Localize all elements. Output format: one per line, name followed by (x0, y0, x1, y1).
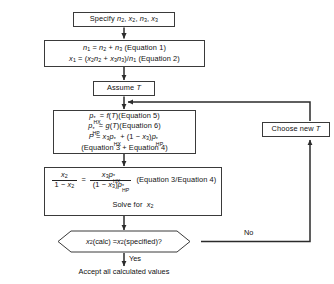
node-ratio: x2 1 − x2 = x3p*HX (1 − x3)p*HP (Equatio… (44, 167, 222, 216)
node-ratio-solve-for: Solve for x2 (45, 200, 221, 211)
node-accept: Accept all calculated values (0, 267, 248, 276)
node-specify: Specify n2, x2, n3, x3 (73, 12, 175, 27)
node-decision-text: x2(calc) = x2(specified)? (47, 230, 201, 253)
edge-label-no: No (244, 228, 253, 237)
ratio-right-fraction: x3p*HX (1 − x3)p*HP (90, 171, 132, 189)
ratio-right-denominator: (1 − x3)p*HP (90, 180, 132, 190)
node-choose-new-t: Choose new T (262, 122, 330, 137)
node-equations56-line1: p*HX = f(T)(Equation 5) (89, 111, 160, 122)
node-specify-text: Specify n2, x2, n3, x3 (90, 14, 158, 25)
node-assume-t: Assume T (93, 81, 155, 96)
node-equations12: n1 = n2 + n3 (Equation 1) x1 = (x2n2 + x… (44, 40, 205, 67)
node-choose-new-t-text: Choose new T (272, 124, 321, 135)
node-assume-t-text: Assume T (107, 83, 141, 94)
node-equations56-line4: (Equation 3 + Equation 4) (81, 143, 168, 154)
ratio-left-numerator: x2 (58, 171, 71, 180)
flowchart-canvas: Specify n2, x2, n3, x3 n1 = n2 + n3 (Equ… (0, 0, 334, 284)
ratio-left-denominator: 1 − x2 (52, 180, 78, 190)
edge-label-yes: Yes (129, 254, 141, 263)
node-decision: x2(calc) = x2(specified)? (47, 230, 201, 253)
node-ratio-reference: (Equation 3/Equation 4) (136, 175, 216, 186)
node-ratio-equation: x2 1 − x2 = x3p*HX (1 − x3)p*HP (Equatio… (50, 171, 217, 189)
ratio-equals-sign: = (81, 175, 85, 186)
node-equations12-line1: n1 = n2 + n3 (Equation 1) (83, 43, 166, 54)
node-equations12-line2: x1 = (x2n2 + x3n3)/n1 (Equation 2) (69, 54, 180, 65)
node-equations56: p*HX = f(T)(Equation 5) p*HP = g(T)(Equa… (53, 110, 196, 154)
ratio-left-fraction: x2 1 − x2 (52, 171, 78, 189)
ratio-right-numerator: x3p*HX (99, 171, 123, 180)
